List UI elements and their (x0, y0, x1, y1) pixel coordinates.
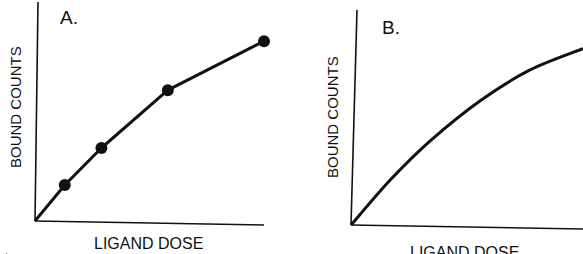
panel-a-series-line (35, 41, 264, 221)
panel-b-x-axis (351, 225, 583, 229)
panel-a-data-point (258, 35, 270, 47)
panel-b-series-line (351, 49, 583, 225)
panel-a-data-point (95, 142, 107, 154)
panel-a-x-axis (35, 221, 264, 225)
panel-a-data-point (59, 179, 71, 191)
panel-a-y-axis (35, 2, 38, 221)
panel-b-y-axis (351, 10, 357, 225)
panel-a-label: A. (60, 7, 78, 28)
panel-b: B. BOUND COUNTS LIGAND DOSE (324, 10, 583, 254)
figure: A. BOUND COUNTS LIGAND DOSE B. BOUND COU… (0, 0, 583, 254)
panel-b-y-label: BOUND COUNTS (324, 56, 341, 178)
panel-b-label: B. (382, 17, 400, 38)
panel-a-data-point (162, 84, 174, 96)
panel-a-y-label: BOUND COUNTS (7, 46, 24, 168)
panel-b-x-label: LIGAND DOSE (410, 244, 519, 254)
panel-a: A. BOUND COUNTS LIGAND DOSE (7, 2, 270, 252)
panel-a-x-label: LIGAND DOSE (94, 235, 203, 252)
